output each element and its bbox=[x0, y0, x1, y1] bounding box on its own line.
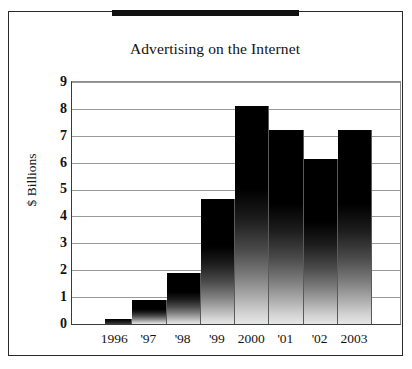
x-tick-2003: 2003 bbox=[330, 332, 378, 346]
y-tick-9: 9 bbox=[49, 75, 67, 89]
y-tick-6: 6 bbox=[49, 156, 67, 170]
bar-2000 bbox=[235, 106, 269, 324]
bar-99 bbox=[201, 199, 235, 324]
y-tick-1: 1 bbox=[49, 290, 67, 304]
y-tick-5: 5 bbox=[49, 182, 67, 196]
bar-2003 bbox=[338, 130, 372, 324]
figure-frame: Advertising on the Internet $ Billions 9… bbox=[8, 11, 403, 356]
bar-01 bbox=[269, 130, 303, 324]
bar-02 bbox=[304, 159, 338, 324]
y-tick-3: 3 bbox=[49, 236, 67, 250]
y-tick-8: 8 bbox=[49, 102, 67, 116]
x-axis-tick-labels: 1996'97'98'992000'01'022003 bbox=[71, 332, 401, 354]
bar-97 bbox=[132, 300, 166, 324]
decorative-top-rule bbox=[112, 10, 299, 16]
y-axis-tick-labels: 9 8 7 6 5 4 3 2 1 0 bbox=[39, 12, 67, 369]
gridline-9 bbox=[72, 82, 400, 83]
y-tick-0: 0 bbox=[49, 317, 67, 331]
bar-98 bbox=[167, 273, 201, 324]
plot-area bbox=[71, 81, 401, 325]
y-axis-title: $ Billions bbox=[24, 130, 40, 230]
page-title: Advertising on the Internet bbox=[9, 40, 412, 58]
bar-1996 bbox=[105, 319, 132, 324]
y-tick-7: 7 bbox=[49, 129, 67, 143]
y-tick-2: 2 bbox=[49, 263, 67, 277]
y-tick-4: 4 bbox=[49, 209, 67, 223]
